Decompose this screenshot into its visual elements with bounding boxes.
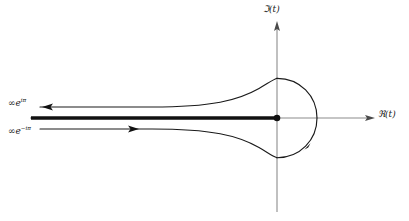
imaginary-axis-argument: (t) xyxy=(269,4,280,14)
infinity-symbol-lower: ∞ xyxy=(8,126,16,136)
exponent-upper: iπ xyxy=(21,97,26,103)
label-infinity-e-i-pi: ∞eiπ xyxy=(8,99,26,108)
figure-canvas xyxy=(0,0,409,221)
real-part-symbol: ℜ xyxy=(378,109,385,119)
infinity-symbol-upper: ∞ xyxy=(8,98,16,108)
exponent-lower: −iπ xyxy=(21,125,31,131)
contour-lower-ray xyxy=(40,129,277,158)
hankel-contour-figure: ∞eiπ ∞e−iπ ℑ(t) ℜ(t) xyxy=(0,0,409,221)
contour-upper-ray xyxy=(40,78,277,107)
imaginary-axis-label: ℑ(t) xyxy=(263,5,280,14)
origin-dot xyxy=(274,115,281,122)
real-axis-argument: (t) xyxy=(385,109,396,119)
real-axis-label: ℜ(t) xyxy=(378,110,396,119)
label-infinity-e-minus-i-pi: ∞e−iπ xyxy=(8,127,31,136)
